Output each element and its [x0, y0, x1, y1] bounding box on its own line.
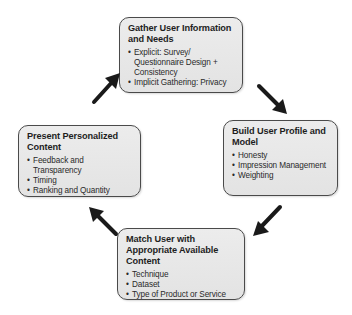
- list-item-text: Impression Management: [238, 161, 326, 170]
- list-item-text: Explicit: Survey/ Questionnaire Design +…: [134, 48, 218, 77]
- arrow-up-left-icon: [86, 204, 122, 240]
- list-item-text: Type of Product or Service: [132, 290, 226, 299]
- list-item: •Timing: [27, 176, 134, 186]
- box-item-list: •Feedback and Transparency •Timing •Rank…: [27, 156, 134, 196]
- box-present-personalized-content: Present Personalized Content •Feedback a…: [18, 125, 141, 197]
- box-item-list: •Explicit: Survey/ Questionnaire Design …: [128, 48, 236, 88]
- arrow-down-right-icon: [255, 82, 291, 118]
- box-title: Gather User Information and Needs: [128, 23, 236, 45]
- list-item: •Technique: [126, 270, 238, 280]
- list-item: •Explicit: Survey/ Questionnaire Design …: [128, 48, 236, 78]
- list-item-text: Timing: [33, 176, 57, 185]
- list-item: •Impression Management: [232, 161, 331, 171]
- arrow-down-left-icon: [250, 203, 286, 239]
- list-item: •Weighting: [232, 171, 331, 181]
- list-item-text: Weighting: [238, 171, 273, 180]
- list-item: •Feedback and Transparency: [27, 156, 134, 176]
- list-item: •Implicit Gathering: Privacy: [128, 78, 236, 88]
- box-build-user-profile: Build User Profile and Model •Honesty •I…: [223, 120, 338, 196]
- list-item: •Dataset: [126, 280, 238, 290]
- box-title: Match User with Appropriate Available Co…: [126, 234, 238, 267]
- arrow-up-right-icon: [88, 70, 124, 106]
- box-title: Present Personalized Content: [27, 131, 134, 153]
- list-item: •Honesty: [232, 151, 331, 161]
- list-item-text: Feedback and Transparency: [33, 156, 84, 175]
- box-match-user-content: Match User with Appropriate Available Co…: [117, 228, 245, 300]
- list-item: •Type of Product or Service: [126, 290, 238, 300]
- box-gather-user-information: Gather User Information and Needs •Expli…: [119, 17, 243, 93]
- list-item-text: Dataset: [132, 280, 160, 289]
- box-item-list: •Technique •Dataset •Type of Product or …: [126, 270, 238, 300]
- list-item: •Ranking and Quantity: [27, 186, 134, 196]
- list-item-text: Implicit Gathering: Privacy: [134, 78, 226, 87]
- box-title: Build User Profile and Model: [232, 126, 331, 148]
- list-item-text: Honesty: [238, 151, 267, 160]
- box-item-list: •Honesty •Impression Management •Weighti…: [232, 151, 331, 181]
- list-item-text: Ranking and Quantity: [33, 186, 110, 195]
- list-item-text: Technique: [132, 270, 168, 279]
